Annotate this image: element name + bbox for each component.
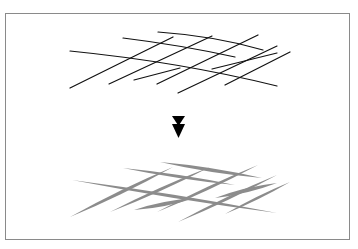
input-line: [134, 68, 180, 80]
input-line-drawing: [70, 32, 290, 93]
diagram-canvas: [0, 0, 358, 249]
input-line: [70, 51, 277, 86]
input-line: [158, 32, 263, 50]
brush-stroke: [72, 180, 277, 213]
input-line: [212, 53, 277, 69]
output-brush-strokes: [70, 162, 290, 222]
brush-stroke: [215, 183, 277, 198]
input-line: [157, 35, 258, 84]
input-line: [178, 46, 277, 93]
double-down-arrow-icon: [172, 116, 185, 138]
